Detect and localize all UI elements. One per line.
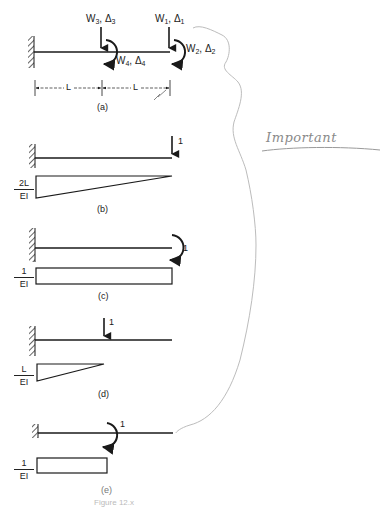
label-delta3-sub: 3 bbox=[112, 18, 116, 25]
label-w3-sub: 3 bbox=[95, 18, 99, 25]
label-w2-delta2: W2, Δ2 bbox=[186, 44, 216, 55]
fraction-numerator: L bbox=[14, 364, 34, 376]
span-label-2: L bbox=[133, 83, 138, 92]
panel-a bbox=[28, 27, 185, 100]
label-delta4: Δ bbox=[135, 55, 142, 66]
fraction-numerator: 1 bbox=[14, 458, 34, 470]
moment-arrow-w2-icon bbox=[172, 40, 185, 64]
unit-moment-arrow-icon bbox=[170, 235, 184, 260]
moment-diagram-rectangle bbox=[37, 458, 107, 473]
pencil-underline bbox=[262, 147, 380, 151]
panel-b bbox=[29, 136, 172, 198]
label-delta3: Δ bbox=[105, 13, 112, 24]
handwritten-note: Important bbox=[266, 130, 337, 145]
moment-diagram-triangle bbox=[37, 364, 104, 381]
fixed-support-icon bbox=[29, 326, 35, 356]
moment-ordinate-1-ei: 1 EI bbox=[14, 266, 34, 289]
figure-caption-partial: Figure 12.x bbox=[94, 498, 134, 507]
fraction-denominator: EI bbox=[14, 278, 34, 289]
fixed-support-icon bbox=[32, 424, 38, 438]
label-delta1: Δ bbox=[174, 13, 181, 24]
unit-load-label: 1 bbox=[109, 318, 114, 327]
moment-diagram-triangle bbox=[36, 176, 172, 198]
label-delta2: Δ bbox=[205, 43, 212, 54]
unit-moment-label: 1 bbox=[120, 420, 125, 429]
fraction-numerator: 1 bbox=[14, 266, 34, 278]
label-w2-sub: 2 bbox=[195, 48, 199, 55]
caption-d: (d) bbox=[98, 389, 109, 399]
fraction-denominator: EI bbox=[14, 376, 34, 387]
caption-b: (b) bbox=[97, 204, 108, 214]
caption-a: (a) bbox=[97, 102, 108, 112]
label-delta1-sub: 1 bbox=[181, 18, 185, 25]
fraction-numerator: 2L bbox=[14, 178, 34, 190]
label-w4-delta4: W4, Δ4 bbox=[116, 56, 146, 67]
fraction-denominator: EI bbox=[14, 190, 34, 201]
fixed-support-icon bbox=[29, 228, 35, 262]
panel-d bbox=[29, 318, 172, 381]
label-w1-delta1: W1, Δ1 bbox=[155, 14, 185, 25]
fixed-support-icon bbox=[28, 36, 34, 68]
span-label-1: L bbox=[66, 83, 71, 92]
moment-diagram-rectangle bbox=[36, 268, 172, 284]
pencil-checkmark-icon bbox=[154, 90, 166, 100]
fixed-support-icon bbox=[29, 144, 35, 168]
fraction-denominator: EI bbox=[14, 470, 34, 481]
moment-ordinate-l-ei: L EI bbox=[14, 364, 34, 387]
moment-ordinate-2l-ei: 2L EI bbox=[14, 178, 34, 201]
caption-c: (c) bbox=[98, 291, 109, 301]
label-delta4-sub: 4 bbox=[142, 60, 146, 67]
unit-moment-label: 1 bbox=[183, 244, 188, 253]
unit-moment-arrow-icon bbox=[103, 423, 117, 447]
label-w1-sub: 1 bbox=[164, 18, 168, 25]
label-w4-sub: 4 bbox=[125, 60, 129, 67]
label-w3-delta3: W3, Δ3 bbox=[86, 14, 116, 25]
pencil-enclosing-curve bbox=[176, 27, 256, 433]
panel-c bbox=[29, 228, 184, 284]
panel-e bbox=[32, 423, 173, 473]
caption-e: (e) bbox=[101, 485, 112, 495]
label-delta2-sub: 2 bbox=[212, 48, 216, 55]
unit-load-label: 1 bbox=[178, 137, 183, 146]
moment-ordinate-1-ei: 1 EI bbox=[14, 458, 34, 481]
